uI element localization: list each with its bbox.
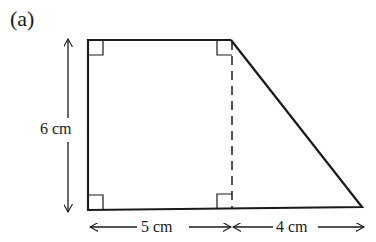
right-angle-marker-bottom-right [217, 194, 232, 209]
trapezium-diagram: (a) 6 cm 5 cm 4 cm [0, 0, 376, 242]
right-angle-marker-bottom-left [88, 195, 103, 210]
right-angle-marker-top-left [88, 40, 103, 55]
right-angle-marker-top-right [217, 40, 232, 55]
part-label: (a) [10, 6, 34, 31]
trapezium-outline [88, 40, 362, 210]
triangle-base-label: 4 cm [276, 218, 308, 235]
height-label: 6 cm [40, 120, 72, 137]
rect-width-label: 5 cm [141, 218, 173, 235]
